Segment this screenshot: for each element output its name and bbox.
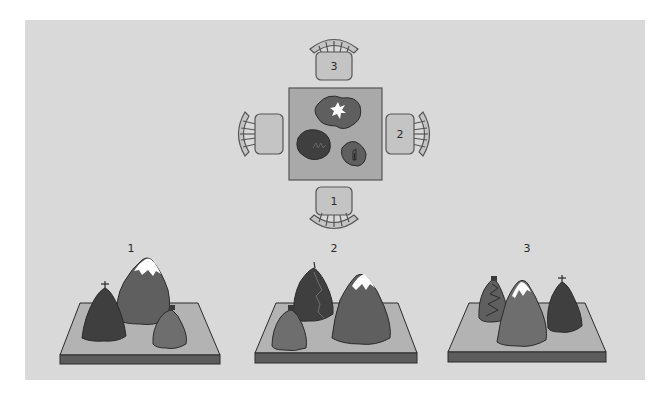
view-label: 2 xyxy=(331,242,338,255)
chair-1: 1 xyxy=(310,187,358,229)
hut-icon xyxy=(169,305,175,310)
view-label: 1 xyxy=(128,242,135,255)
board-front xyxy=(255,353,417,363)
board-front xyxy=(448,352,606,362)
chair-2: 2 xyxy=(386,112,430,156)
chair-number: 2 xyxy=(397,128,404,141)
top-mountain-zigzag xyxy=(297,130,330,160)
chair-seat xyxy=(255,114,283,154)
chair-number: 3 xyxy=(331,60,338,73)
view-label: 3 xyxy=(524,242,531,255)
chair-number: 1 xyxy=(331,195,338,208)
board-front xyxy=(60,355,220,364)
hut-icon xyxy=(288,305,294,310)
three-mountains-diagram: 3 2 1 xyxy=(0,0,668,393)
chair-3: 3 xyxy=(310,40,358,81)
chair-left xyxy=(239,112,284,156)
hut-icon xyxy=(491,276,497,281)
